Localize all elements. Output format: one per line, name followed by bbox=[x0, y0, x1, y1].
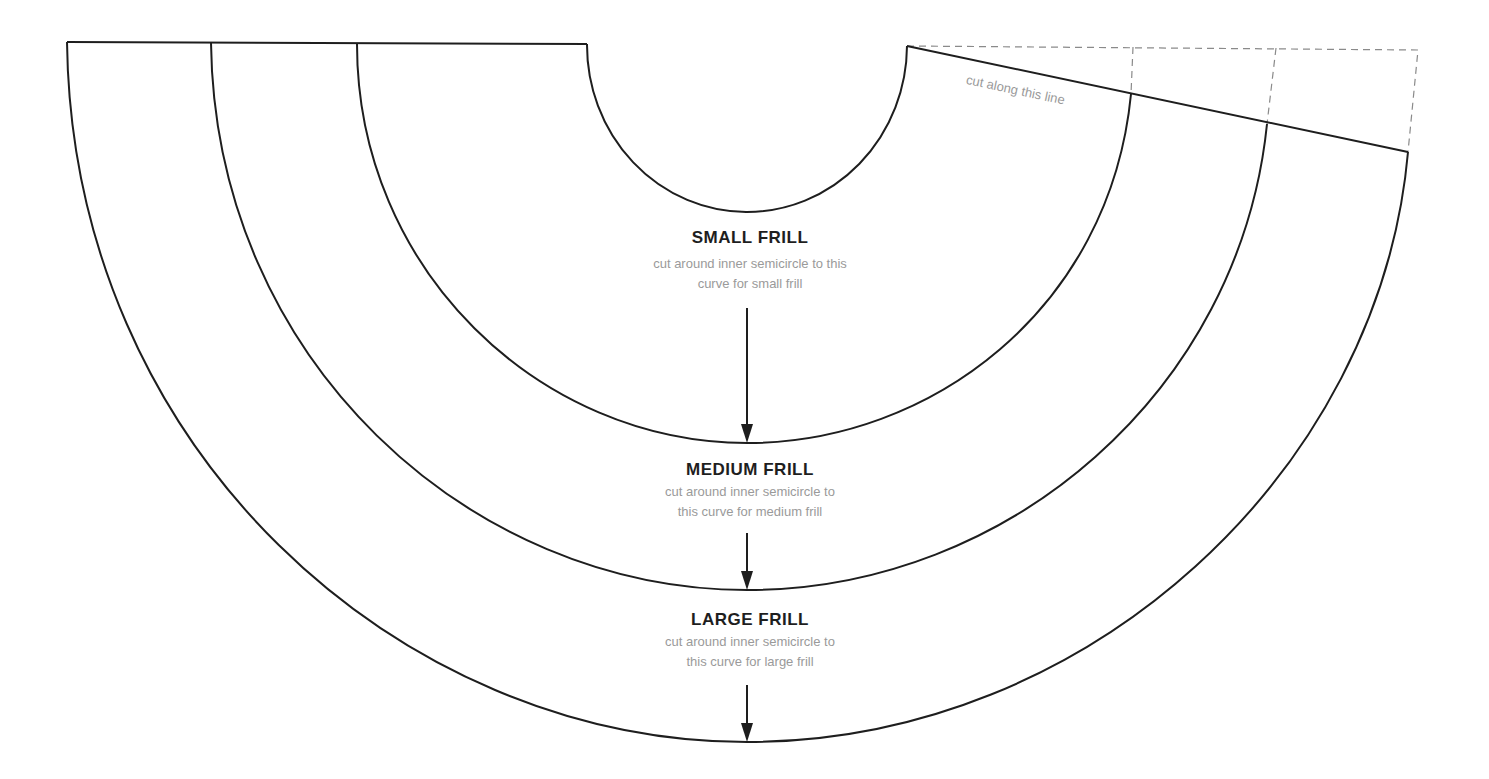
arrow-down-icon bbox=[741, 571, 753, 590]
large-frill-label: LARGE FRILL cut around inner semicircle … bbox=[665, 610, 835, 672]
top-edge bbox=[67, 42, 587, 44]
medium-frill-label: MEDIUM FRILL cut around inner semicircle… bbox=[665, 460, 835, 522]
inner-semicircle bbox=[587, 44, 907, 212]
arrow-down-icon bbox=[741, 424, 753, 443]
large-frill-desc: cut around inner semicircle to this curv… bbox=[665, 632, 835, 672]
dashed-guide-medium bbox=[1267, 48, 1276, 124]
small-frill-title: SMALL FRILL bbox=[653, 228, 847, 248]
small-frill-desc: cut around inner semicircle to this curv… bbox=[653, 254, 847, 294]
medium-frill-title: MEDIUM FRILL bbox=[665, 460, 835, 480]
dashed-guide-small bbox=[1131, 47, 1133, 94]
medium-frill-desc: cut around inner semicircle to this curv… bbox=[665, 482, 835, 522]
arrow-down-icon bbox=[741, 723, 753, 742]
cut-line bbox=[907, 46, 1408, 152]
large-frill-title: LARGE FRILL bbox=[665, 610, 835, 630]
small-frill-label: SMALL FRILL cut around inner semicircle … bbox=[653, 228, 847, 294]
